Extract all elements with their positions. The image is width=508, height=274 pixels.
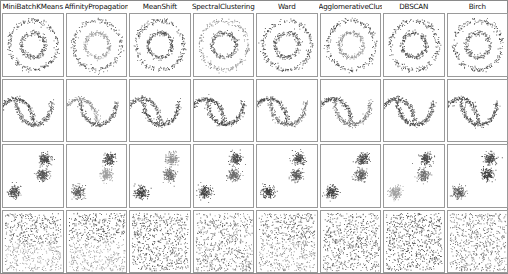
scatter-plot	[384, 211, 444, 273]
scatter-plot	[448, 211, 508, 273]
scatter-plot	[257, 14, 317, 76]
scatter-plot	[3, 80, 63, 142]
scatter-plot	[257, 80, 317, 142]
scatter-plot	[194, 145, 254, 207]
panel-minibatchkmeans-uniform_noise	[2, 210, 64, 274]
panel-meanshift-noisy_moons	[129, 79, 191, 143]
scatter-plot	[448, 80, 508, 142]
column-title-agglomerativeclustering: AgglomerativeClustering	[319, 1, 383, 12]
column-title-meanshift: MeanShift	[128, 1, 192, 12]
panel-meanshift-blobs	[129, 144, 191, 208]
scatter-plot	[130, 145, 190, 207]
panel-dbscan-noisy_circles	[383, 13, 445, 77]
panel-ward-noisy_circles	[256, 13, 318, 77]
scatter-plot	[384, 14, 444, 76]
panel-birch-noisy_moons	[447, 79, 508, 143]
scatter-plot	[3, 14, 63, 76]
column-title-spectralclustering: SpectralClustering	[192, 1, 256, 12]
scatter-plot	[321, 145, 381, 207]
column-title-row: MiniBatchKMeansAffinityPropagationMeanSh…	[1, 1, 508, 12]
scatter-plot	[257, 145, 317, 207]
scatter-plot	[130, 211, 190, 273]
panel-agglomerativeclustering-uniform_noise	[320, 210, 382, 274]
scatter-plot	[67, 14, 127, 76]
clustering-comparison-figure: MiniBatchKMeansAffinityPropagationMeanSh…	[0, 0, 508, 274]
scatter-plot	[194, 80, 254, 142]
scatter-plot	[321, 80, 381, 142]
panel-minibatchkmeans-noisy_moons	[2, 79, 64, 143]
scatter-plot	[3, 145, 63, 207]
panel-ward-noisy_moons	[256, 79, 318, 143]
panel-birch-blobs	[447, 144, 508, 208]
scatter-plot	[448, 14, 508, 76]
panel-meanshift-uniform_noise	[129, 210, 191, 274]
scatter-plot	[67, 145, 127, 207]
panel-meanshift-noisy_circles	[129, 13, 191, 77]
scatter-plot	[194, 14, 254, 76]
panel-affinitypropagation-uniform_noise	[66, 210, 128, 274]
panel-minibatchkmeans-blobs	[2, 144, 64, 208]
panel-minibatchkmeans-noisy_circles	[2, 13, 64, 77]
scatter-plot	[130, 14, 190, 76]
panel-dbscan-noisy_moons	[383, 79, 445, 143]
scatter-plot	[3, 211, 63, 273]
panel-affinitypropagation-noisy_moons	[66, 79, 128, 143]
panel-ward-uniform_noise	[256, 210, 318, 274]
column-title-birch: Birch	[446, 1, 508, 12]
scatter-plot	[67, 211, 127, 273]
scatter-plot	[448, 145, 508, 207]
panel-spectralclustering-noisy_circles	[193, 13, 255, 77]
scatter-plot	[384, 80, 444, 142]
panel-dbscan-uniform_noise	[383, 210, 445, 274]
panel-agglomerativeclustering-noisy_moons	[320, 79, 382, 143]
panel-spectralclustering-uniform_noise	[193, 210, 255, 274]
scatter-plot	[384, 145, 444, 207]
panel-birch-noisy_circles	[447, 13, 508, 77]
scatter-plot	[321, 211, 381, 273]
panel-grid	[1, 12, 508, 274]
column-title-ward: Ward	[255, 1, 319, 12]
panel-spectralclustering-blobs	[193, 144, 255, 208]
panel-affinitypropagation-blobs	[66, 144, 128, 208]
scatter-plot	[67, 80, 127, 142]
panel-birch-uniform_noise	[447, 210, 508, 274]
panel-dbscan-blobs	[383, 144, 445, 208]
panel-agglomerativeclustering-blobs	[320, 144, 382, 208]
column-title-affinitypropagation: AffinityPropagation	[65, 1, 129, 12]
scatter-plot	[321, 14, 381, 76]
column-title-dbscan: DBSCAN	[382, 1, 446, 12]
panel-spectralclustering-noisy_moons	[193, 79, 255, 143]
column-title-minibatchkmeans: MiniBatchKMeans	[1, 1, 65, 12]
panel-affinitypropagation-noisy_circles	[66, 13, 128, 77]
panel-agglomerativeclustering-noisy_circles	[320, 13, 382, 77]
scatter-plot	[194, 211, 254, 273]
panel-ward-blobs	[256, 144, 318, 208]
scatter-plot	[130, 80, 190, 142]
scatter-plot	[257, 211, 317, 273]
